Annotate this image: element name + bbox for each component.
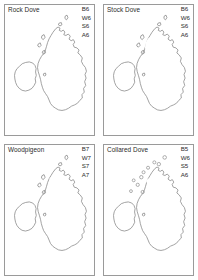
panel-woodpigeon[interactable]: Woodpigeon B7 W7 S7 A7 xyxy=(0,140,99,280)
outer-hebrides-north xyxy=(41,175,45,180)
record-dot xyxy=(130,190,133,193)
panel-title: Rock Dove xyxy=(8,6,40,14)
isle-of-man xyxy=(43,213,46,216)
figure-root: Rock Dove B6 W6 S6 A6 xyxy=(0,0,198,280)
shetland-isles xyxy=(65,15,68,20)
code-breeding: B6 xyxy=(181,5,189,14)
code-winter: W6 xyxy=(82,14,91,23)
panel-collared-dove[interactable]: Collared Dove B5 W6 S5 A6 xyxy=(99,140,198,280)
gb-gap-northwest-highlands xyxy=(146,176,156,184)
ireland-landmass xyxy=(15,202,37,231)
gb-gap-wales xyxy=(50,88,57,96)
panel-title: Stock Dove xyxy=(107,6,140,14)
code-stack: B6 W6 S6 A6 xyxy=(82,5,91,39)
record-dot xyxy=(142,171,145,174)
great-britain-landmass xyxy=(137,167,186,250)
map-woodpigeon xyxy=(5,145,94,275)
panel-grid: Rock Dove B6 W6 S6 A6 xyxy=(0,0,198,280)
gb-gap-central xyxy=(56,70,62,75)
panel-title: Woodpigeon xyxy=(8,146,44,154)
gb-gap-midlands xyxy=(62,93,68,98)
record-dot xyxy=(153,161,156,164)
record-dot xyxy=(132,179,135,182)
gb-gap-nw-highlands xyxy=(145,33,162,50)
code-summer: S6 xyxy=(82,22,90,31)
outer-hebrides-north xyxy=(140,35,144,40)
outer-hebrides-south xyxy=(137,43,140,47)
outer-hebrides-north xyxy=(41,35,45,40)
ireland-landmass xyxy=(114,62,136,91)
code-autumn: A6 xyxy=(82,31,90,40)
shetland-isles xyxy=(65,155,68,160)
panel-stock-dove[interactable]: Stock Dove B6 W6 S6 A6 xyxy=(99,0,198,140)
outer-hebrides-south xyxy=(38,43,41,47)
record-dot xyxy=(140,175,143,178)
isle-of-man xyxy=(43,73,46,76)
ireland-landmass xyxy=(114,202,136,231)
code-breeding: B6 xyxy=(82,5,90,14)
ireland-gap-west xyxy=(117,72,122,78)
record-dot xyxy=(163,156,167,160)
map-rock-dove xyxy=(5,5,94,135)
record-dot xyxy=(147,166,150,169)
code-winter: W7 xyxy=(82,154,91,163)
isle-of-man xyxy=(142,213,145,216)
gb-gap-wales-gap xyxy=(147,90,152,95)
shetland-isles xyxy=(164,15,167,20)
code-summer: S7 xyxy=(82,162,90,171)
great-britain-landmass xyxy=(38,167,87,250)
isle-of-man xyxy=(142,73,145,76)
outer-hebrides-south xyxy=(38,183,41,187)
ireland-interior-unfilled xyxy=(17,66,34,87)
code-winter: W6 xyxy=(181,14,190,23)
orkney-isles xyxy=(58,163,62,166)
code-summer: S5 xyxy=(181,162,189,171)
map-collared-dove xyxy=(104,145,193,275)
code-autumn: A7 xyxy=(82,171,90,180)
code-breeding: B7 xyxy=(82,145,90,154)
code-winter: W6 xyxy=(181,154,190,163)
code-autumn: A6 xyxy=(181,31,189,40)
code-stack: B5 W6 S5 A6 xyxy=(181,145,190,179)
code-stack: B7 W7 S7 A7 xyxy=(82,145,91,179)
orkney-isles xyxy=(58,23,62,26)
record-dot xyxy=(136,183,139,186)
panel-rock-dove[interactable]: Rock Dove B6 W6 S6 A6 xyxy=(0,0,99,140)
map-stock-dove xyxy=(104,5,193,135)
record-dot xyxy=(157,162,160,165)
panel-title: Collared Dove xyxy=(107,146,148,154)
code-breeding: B5 xyxy=(181,145,189,154)
great-britain-landmass xyxy=(38,27,87,110)
orkney-isles xyxy=(157,23,161,26)
code-stack: B6 W6 S6 A6 xyxy=(181,5,190,39)
code-autumn: A6 xyxy=(181,171,189,180)
gb-gap-grampian xyxy=(154,50,163,58)
code-summer: S6 xyxy=(181,22,189,31)
